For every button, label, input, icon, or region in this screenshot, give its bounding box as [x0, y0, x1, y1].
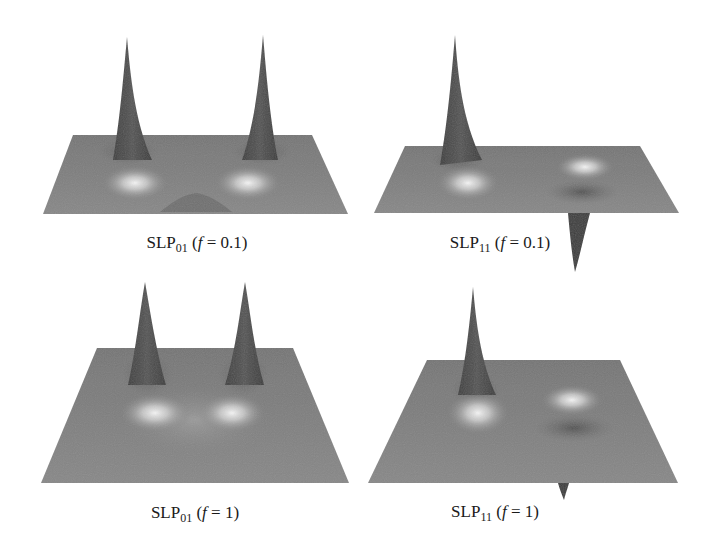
highlight — [101, 165, 169, 201]
caption-value: = 1) — [207, 503, 239, 522]
figure-slp-mode-surfaces: SLP01 (f = 0.1) SLP11 (f = 0.1) SLP01 (f… — [0, 0, 715, 548]
panel-slp01-f0.1 — [43, 35, 348, 214]
caption-slp11-f0.1: SLP11 (f = 0.1) — [450, 234, 551, 251]
highlight — [540, 384, 604, 416]
caption-value: = 0.1) — [202, 233, 247, 252]
surface-plane — [368, 360, 678, 483]
panel-slp01-f1 — [41, 282, 349, 483]
caption-base: SLP — [450, 233, 479, 252]
highlight — [436, 165, 500, 201]
caption-open: ( — [192, 503, 202, 522]
highlight — [446, 391, 510, 435]
surface-plane — [374, 146, 679, 213]
caption-open: ( — [492, 502, 502, 521]
caption-subscript: 11 — [480, 510, 492, 524]
peak-up — [440, 35, 482, 165]
caption-subscript: 01 — [180, 511, 192, 525]
caption-subscript: 11 — [479, 241, 491, 255]
caption-base: SLP — [147, 233, 176, 252]
caption-slp11-f1: SLP11 (f = 1) — [451, 503, 539, 520]
highlight — [214, 165, 282, 201]
dip-shadow — [546, 180, 618, 204]
dip-shadow — [534, 414, 614, 442]
spike-down — [568, 213, 590, 272]
highlight — [555, 153, 615, 181]
highlight — [198, 393, 266, 433]
caption-subscript: 01 — [176, 241, 188, 255]
spike-down — [558, 483, 569, 500]
caption-slp01-f1: SLP01 (f = 1) — [151, 504, 239, 521]
caption-value: = 0.1) — [505, 233, 550, 252]
peak-right — [225, 282, 264, 385]
caption-open: ( — [188, 233, 198, 252]
caption-slp01-f0.1: SLP01 (f = 0.1) — [147, 234, 248, 251]
panel-slp11-f1 — [368, 287, 678, 500]
peak-left — [128, 282, 166, 385]
caption-base: SLP — [451, 502, 480, 521]
caption-value: = 1) — [507, 502, 539, 521]
caption-base: SLP — [151, 503, 180, 522]
caption-open: ( — [491, 233, 501, 252]
surface-plots-canvas — [0, 0, 715, 548]
highlight — [119, 393, 191, 433]
